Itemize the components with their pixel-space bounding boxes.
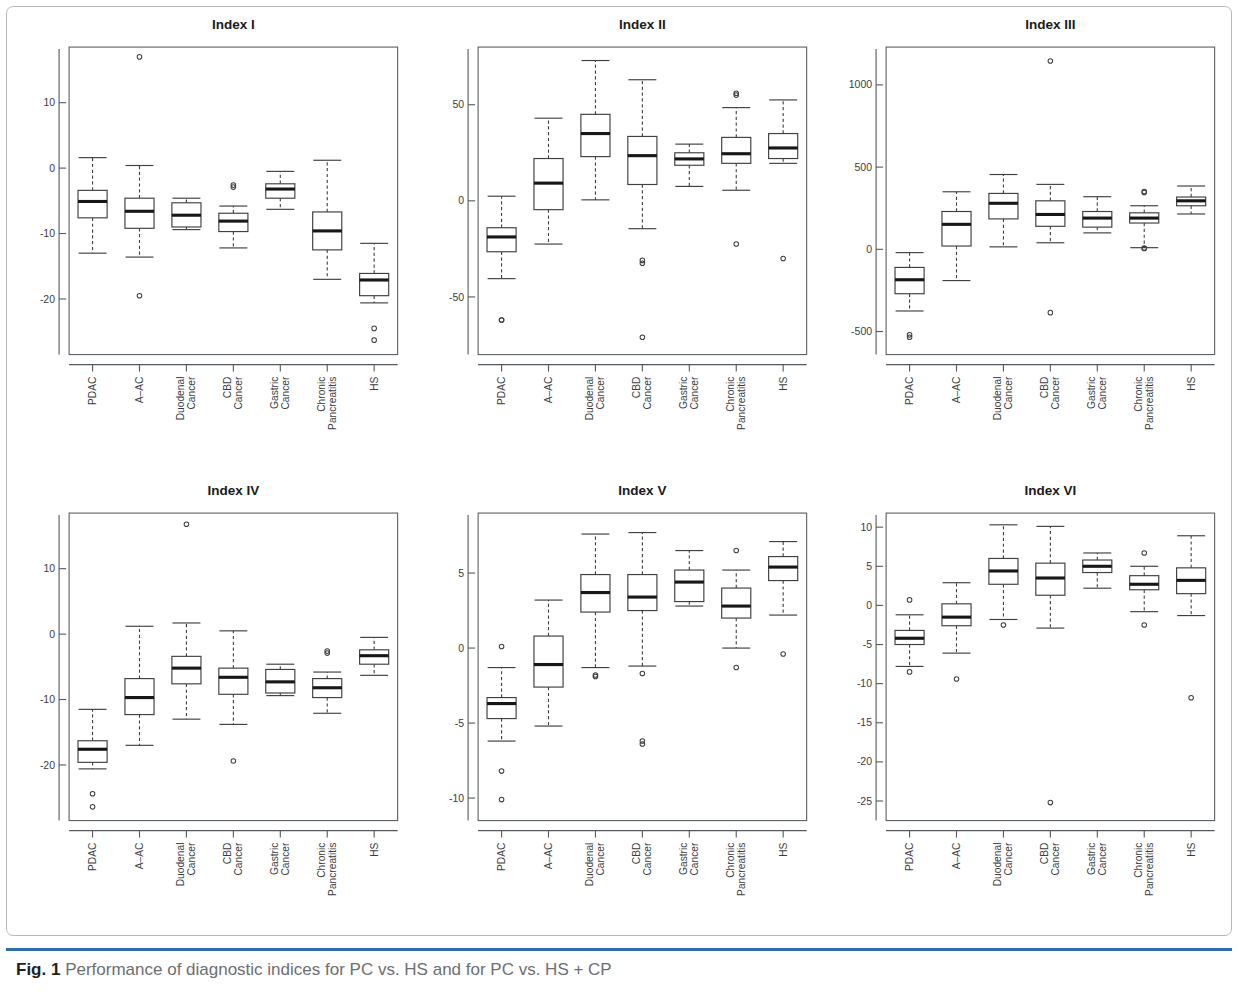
x-tick-label-group: A–AC	[134, 842, 145, 869]
x-tick-label-group: A–AC	[543, 377, 554, 404]
x-tick-label: PDAC	[87, 377, 98, 405]
x-tick-label: PDAC	[87, 842, 98, 870]
x-tick-label-group: A–AC	[543, 842, 554, 869]
figure-frame: Index I100-10-20PDACA–ACDuodenalCancerCB…	[6, 6, 1232, 936]
y-tick-label: 0	[458, 641, 464, 653]
x-tick-label: CBD	[631, 842, 642, 864]
x-tick-label: Duodenal	[584, 377, 595, 421]
x-tick-label: PDAC	[496, 377, 507, 405]
x-tick-label-group: CBDCancer	[222, 842, 244, 875]
boxplot-group	[266, 664, 295, 695]
x-tick-label-group: GastricCancer	[678, 842, 700, 875]
y-tick-label: 0	[49, 627, 55, 639]
x-tick-label-group: CBDCancer	[631, 842, 653, 875]
panel-title: Index V	[618, 483, 666, 498]
x-tick-label: A–AC	[951, 377, 962, 404]
x-tick-label-group: GastricCancer	[269, 376, 291, 409]
x-tick-label: CBD	[222, 842, 233, 864]
boxplot-group	[360, 243, 389, 342]
y-tick-label: -20	[40, 758, 55, 770]
x-tick-label-group: PDAC	[496, 842, 507, 870]
y-tick-label: 0	[867, 599, 873, 611]
y-tick-label: -10	[40, 227, 55, 239]
boxplot-panel-5: Index V50-5-10PDACA–ACDuodenalCancerCBDC…	[416, 473, 825, 939]
boxplot-panel-4: Index IV100-10-20PDACA–ACDuodenalCancerC…	[7, 473, 416, 939]
x-tick-label: Duodenal	[175, 377, 186, 421]
x-tick-label-group: DuodenalCancer	[175, 376, 197, 420]
x-tick-label: Cancer	[642, 376, 653, 409]
outlier-point	[499, 644, 504, 649]
x-tick-label: Gastric	[678, 377, 689, 409]
box-iqr-rect	[172, 656, 201, 683]
boxplot-group	[78, 158, 107, 254]
x-tick-label: Cancer	[280, 842, 291, 875]
outlier-point	[372, 338, 377, 343]
boxplot-panel-6: Index VI1050-5-10-15-20-25PDACA–ACDuoden…	[824, 473, 1233, 939]
x-tick-label: Pancreatitis	[327, 842, 338, 895]
outlier-point	[184, 522, 189, 527]
outlier-point	[734, 242, 739, 247]
box-iqr-rect	[942, 212, 971, 247]
x-tick-label-group: GastricCancer	[1087, 376, 1109, 409]
boxplot-group	[219, 631, 248, 763]
x-tick-label: A–AC	[951, 842, 962, 869]
x-tick-label: Duodenal	[584, 842, 595, 886]
y-tick-label: 1000	[849, 78, 873, 90]
x-tick-label-group: DuodenalCancer	[993, 842, 1015, 886]
y-tick-label: 0	[867, 243, 873, 255]
x-tick-label-group: ChronicPancreatitis	[1133, 377, 1155, 430]
x-tick-label: CBD	[1040, 842, 1051, 864]
outlier-point	[1142, 550, 1147, 555]
boxplot-group	[313, 649, 342, 713]
x-tick-label: Cancer	[186, 376, 197, 409]
boxplot-svg: Index VI1050-5-10-15-20-25PDACA–ACDuoden…	[824, 473, 1233, 939]
x-tick-label-group: PDAC	[87, 377, 98, 405]
box-iqr-rect	[534, 636, 563, 687]
box-iqr-rect	[581, 114, 610, 156]
outlier-point	[640, 742, 645, 747]
boxplot-group	[1083, 553, 1112, 588]
x-tick-label: Pancreatitis	[327, 377, 338, 430]
boxplot-group	[219, 183, 248, 248]
plot-area-border	[478, 513, 807, 821]
boxplot-group	[125, 626, 154, 745]
boxplot-group	[942, 192, 971, 281]
boxplot-group	[768, 541, 797, 656]
x-tick-label: Chronic	[316, 377, 327, 412]
outlier-point	[908, 669, 913, 674]
outlier-point	[781, 652, 786, 657]
x-tick-label: A–AC	[134, 377, 145, 404]
outlier-point	[908, 597, 913, 602]
outlier-point	[734, 665, 739, 670]
x-tick-label: HS	[1186, 842, 1197, 856]
boxplot-svg: Index I100-10-20PDACA–ACDuodenalCancerCB…	[7, 7, 416, 473]
boxplot-group	[534, 600, 563, 726]
x-tick-label-group: PDAC	[904, 377, 915, 405]
box-iqr-rect	[219, 668, 248, 694]
boxplot-group	[674, 550, 703, 606]
x-tick-label: Chronic	[1133, 842, 1144, 877]
boxplot-group	[534, 118, 563, 244]
box-iqr-rect	[487, 228, 516, 252]
box-iqr-rect	[768, 134, 797, 159]
boxplot-group	[674, 144, 703, 186]
x-tick-label-group: HS	[369, 376, 380, 390]
x-tick-label: Duodenal	[175, 842, 186, 886]
x-tick-label-group: DuodenalCancer	[584, 842, 606, 886]
x-tick-label: CBD	[631, 377, 642, 399]
x-tick-label: Cancer	[689, 842, 700, 875]
outlier-point	[499, 797, 504, 802]
x-tick-label-group: PDAC	[496, 377, 507, 405]
x-tick-label: HS	[369, 376, 380, 390]
x-tick-label: Cancer	[595, 842, 606, 875]
outlier-point	[231, 758, 236, 763]
outlier-point	[90, 791, 95, 796]
x-tick-label: HS	[777, 376, 788, 390]
outlier-point	[1189, 695, 1194, 700]
x-tick-label-group: DuodenalCancer	[993, 376, 1015, 420]
figure-caption-body: Performance of diagnostic indices for PC…	[60, 960, 611, 979]
outlier-point	[1048, 800, 1053, 805]
boxplot-group	[1130, 550, 1159, 627]
x-tick-label-group: ChronicPancreatitis	[316, 842, 338, 895]
y-tick-label: 10	[43, 562, 55, 574]
